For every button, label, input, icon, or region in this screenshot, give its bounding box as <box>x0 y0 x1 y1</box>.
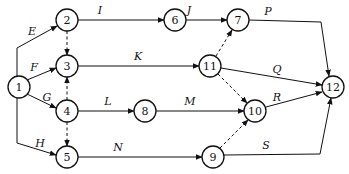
dummy-arrow-9-10 <box>220 120 248 148</box>
activity-arrow-p <box>249 20 329 76</box>
event-node-9: 9 <box>202 146 224 168</box>
activity-arrow-g <box>27 94 56 108</box>
network-diagram: EFGHIJKLMNPQRS 123456789101112 <box>0 0 349 174</box>
node-number: 8 <box>142 105 149 118</box>
node-number: 5 <box>64 151 71 164</box>
activity-label: S <box>262 139 270 152</box>
event-node-1: 1 <box>8 76 30 98</box>
node-number: 1 <box>16 81 23 94</box>
node-number: 4 <box>64 105 71 118</box>
activity-label: Q <box>272 63 281 76</box>
node-number: 12 <box>326 81 340 94</box>
activity-label: M <box>183 95 196 108</box>
dummy-arrow-11-10 <box>218 74 247 103</box>
activity-label: H <box>34 137 45 150</box>
activity-label: L <box>103 95 111 108</box>
event-node-10: 10 <box>244 100 266 122</box>
edges-layer <box>17 20 331 157</box>
activity-label: J <box>185 4 192 17</box>
node-number: 7 <box>235 14 242 27</box>
activity-label: N <box>112 141 123 154</box>
node-number: 11 <box>203 60 217 73</box>
activity-label: I <box>97 4 103 17</box>
event-node-12: 12 <box>322 76 344 98</box>
dummy-arrow-11-7 <box>216 30 232 56</box>
event-node-2: 2 <box>56 9 78 31</box>
node-number: 3 <box>64 60 71 73</box>
node-number: 9 <box>210 151 217 164</box>
event-node-8: 8 <box>134 100 156 122</box>
event-node-7: 7 <box>227 9 249 31</box>
event-node-11: 11 <box>199 55 221 77</box>
activity-label: E <box>27 25 36 38</box>
activity-arrow-s <box>224 98 331 155</box>
activity-label: K <box>133 50 143 63</box>
node-number: 6 <box>172 14 179 27</box>
activity-label: P <box>263 5 272 18</box>
activity-label: G <box>43 91 52 104</box>
event-node-5: 5 <box>56 146 78 168</box>
activity-label: R <box>272 91 281 104</box>
event-node-6: 6 <box>164 9 186 31</box>
nodes-layer: 123456789101112 <box>8 9 344 168</box>
node-number: 10 <box>248 105 262 118</box>
event-node-3: 3 <box>56 55 78 77</box>
node-number: 2 <box>64 14 71 27</box>
event-node-4: 4 <box>56 100 78 122</box>
activity-label: F <box>29 61 38 74</box>
